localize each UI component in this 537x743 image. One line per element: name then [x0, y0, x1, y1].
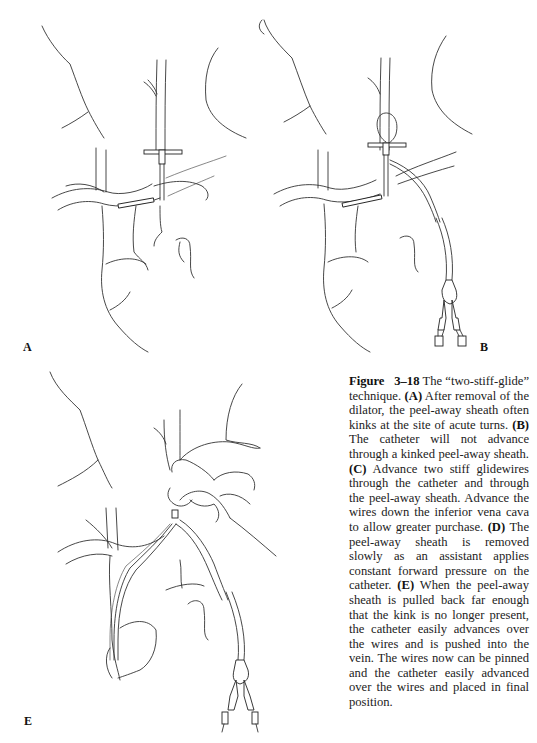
- caption-key-e: (E): [397, 578, 414, 592]
- caption-text-e: When the peel-away sheath is pulled back…: [349, 578, 529, 709]
- anatomy-illustration-b: [260, 0, 537, 360]
- caption-key-c: (C): [349, 462, 366, 476]
- figure-panel-e: E: [0, 360, 300, 743]
- caption-key-a: (A): [405, 389, 422, 403]
- panel-label-a: A: [23, 340, 32, 355]
- caption-figure-word: Figure: [349, 374, 384, 388]
- figure-panel-b: B: [260, 0, 537, 360]
- anatomy-illustration-a: [0, 0, 270, 360]
- figure-panel-a: A: [0, 0, 270, 360]
- panel-label-e: E: [24, 714, 32, 729]
- caption-text-b: The catheter will not advance through a …: [349, 432, 529, 461]
- panel-label-b: B: [480, 340, 488, 355]
- caption-key-d: (D): [488, 520, 505, 534]
- figure-caption: Figure 3–18 The “two-stiff-glide” techni…: [349, 374, 529, 710]
- caption-key-b: (B): [512, 418, 529, 432]
- anatomy-illustration-e: [0, 360, 300, 743]
- caption-figure-number: 3–18: [394, 374, 419, 388]
